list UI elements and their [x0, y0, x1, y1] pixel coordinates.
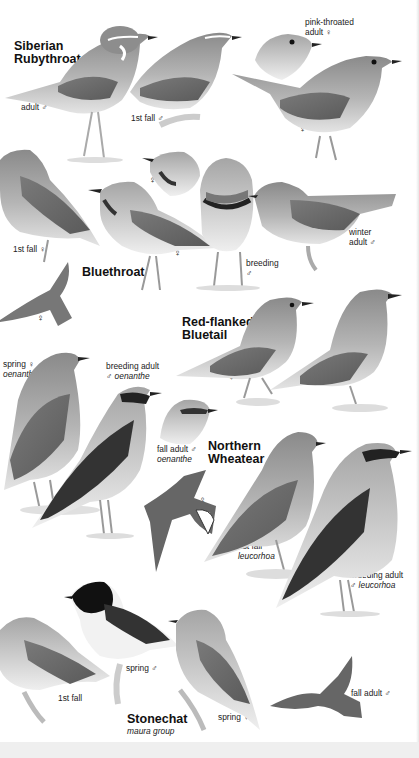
stonechat-spring-female-illustration: [168, 610, 260, 730]
field-guide-plate: Siberian Rubythroat Bluethroat Red-flank…: [0, 0, 419, 742]
stonechat-spring-male-illustration: [64, 582, 178, 704]
rubythroat-pink-throated-female-head-illustration: [255, 34, 322, 80]
bluetail-female-illustration: [176, 297, 314, 406]
bluethroat-breeding-male-illustration: [196, 158, 260, 291]
bluethroat-female-flight-illustration: [0, 262, 72, 326]
bluethroat-female-illustration: [88, 182, 218, 290]
stonechat-fall-adult-male-flight-illustration: [270, 656, 362, 718]
bluethroat-female-head-illustration: [142, 152, 200, 196]
rubythroat-female-illustration: [232, 56, 402, 160]
bluethroat-1st-fall-female-illustration: [0, 150, 100, 262]
bluethroat-winter-adult-male-illustration: [248, 182, 396, 270]
wheatear-fall-adult-male-oenanthe-head-illustration: [160, 400, 218, 445]
rubythroat-1st-fall-male-illustration: [130, 33, 242, 125]
wheatear-female-flight-illustration: [144, 470, 216, 572]
bird-illustrations: [0, 0, 419, 742]
footer-band: [0, 742, 419, 758]
